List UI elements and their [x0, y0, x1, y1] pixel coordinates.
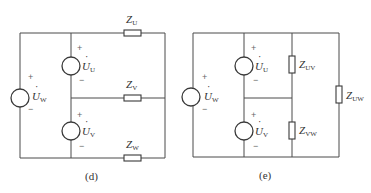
source-circle-icon	[62, 57, 80, 75]
source-label: UU	[255, 60, 268, 74]
source-label: UV	[82, 125, 95, 139]
voltage-source-v-d: + − UV ·	[62, 110, 95, 151]
source-circle-icon	[235, 57, 253, 75]
minus-sign: −	[253, 75, 258, 85]
resistor-icon	[124, 30, 141, 36]
plus-sign: +	[251, 43, 256, 53]
impedance-zw-d: ZW	[124, 138, 141, 161]
caption-d: (d)	[85, 170, 98, 183]
phasor-dot: ·	[85, 116, 88, 127]
source-label: UW	[32, 90, 47, 104]
source-label: UU	[82, 60, 95, 74]
source-circle-icon	[62, 122, 80, 140]
phasor-dot: ·	[207, 81, 210, 92]
resistor-icon	[124, 155, 141, 161]
source-circle-icon	[235, 122, 253, 140]
voltage-source-w-e: + − UW ·	[182, 72, 219, 114]
plus-sign: +	[28, 72, 33, 82]
voltage-source-w-d: + − UW ·	[11, 72, 47, 114]
impedance-zvw-e: ZVW	[289, 122, 317, 139]
impedance-zuv-e: ZUV	[289, 56, 315, 73]
resistor-icon	[336, 86, 342, 103]
circuit-diagrams: + − UW · + − UU · + − UV · ZU ZV	[0, 0, 371, 193]
plus-sign: +	[251, 110, 256, 120]
phasor-dot: ·	[258, 116, 261, 127]
minus-sign: −	[253, 141, 258, 151]
caption-e: (e)	[259, 169, 272, 182]
plus-sign: +	[77, 110, 82, 120]
minus-sign: −	[28, 104, 33, 114]
impedance-label: ZU	[126, 13, 137, 27]
voltage-source-u-d: + − UU ·	[62, 43, 95, 85]
impedance-label: ZUW	[346, 89, 364, 103]
phasor-dot: ·	[258, 51, 261, 62]
minus-sign: −	[79, 75, 84, 85]
source-circle-icon	[11, 89, 29, 107]
source-label: UW	[204, 90, 219, 104]
resistor-icon	[124, 95, 141, 101]
plus-sign: +	[77, 43, 82, 53]
voltage-source-v-e: + − UV ·	[235, 110, 268, 151]
circuit-e: + − UW · + − UU · + − UV · ZUV ZVW	[182, 33, 364, 182]
source-label: UV	[255, 125, 268, 139]
voltage-source-u-e: + − UU ·	[235, 43, 268, 85]
impedance-label: ZVW	[299, 124, 317, 138]
resistor-icon	[289, 56, 295, 73]
phasor-dot: ·	[85, 51, 88, 62]
impedance-zv-d: ZV	[124, 78, 141, 101]
circuit-d: + − UW · + − UU · + − UV · ZU ZV	[11, 13, 165, 183]
source-circle-icon	[182, 88, 200, 106]
impedance-zu-d: ZU	[124, 13, 141, 36]
impedance-label: ZUV	[299, 58, 315, 72]
impedance-label: ZW	[126, 138, 139, 152]
minus-sign: −	[79, 141, 84, 151]
impedance-zuw-e: ZUW	[336, 86, 364, 103]
impedance-label: ZV	[126, 78, 137, 92]
phasor-dot: ·	[35, 81, 38, 92]
minus-sign: −	[202, 104, 207, 114]
resistor-icon	[289, 122, 295, 139]
